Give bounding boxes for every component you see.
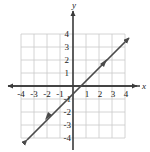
y-tick-label: 2	[65, 55, 70, 65]
y-tick-label: -3	[64, 120, 72, 130]
x-tick-label: 2	[98, 89, 103, 99]
axes	[8, 11, 140, 150]
graph-canvas: -4 -3 -2 -1 1 2 3 4 4 3 2 1 -1 -2 -3 -4 …	[0, 0, 150, 152]
y-axis-label: y	[71, 0, 76, 10]
x-tick-label: 3	[111, 89, 116, 99]
y-tick-label: 1	[65, 68, 70, 78]
y-tick-label: 4	[65, 29, 70, 39]
y-tick-label: -2	[64, 107, 72, 117]
y-tick-label: 3	[65, 42, 70, 52]
y-tick-label: -4	[64, 133, 72, 143]
x-tick-label: 4	[124, 89, 129, 99]
x-tick-label: 1	[85, 89, 90, 99]
y-tick-label: -1	[64, 94, 72, 104]
x-tick-label: -2	[43, 89, 51, 99]
x-tick-label: -3	[30, 89, 38, 99]
x-tick-label: -4	[17, 89, 25, 99]
coordinate-plane-figure: -4 -3 -2 -1 1 2 3 4 4 3 2 1 -1 -2 -3 -4 …	[0, 0, 150, 152]
x-axis-label: x	[141, 81, 146, 91]
